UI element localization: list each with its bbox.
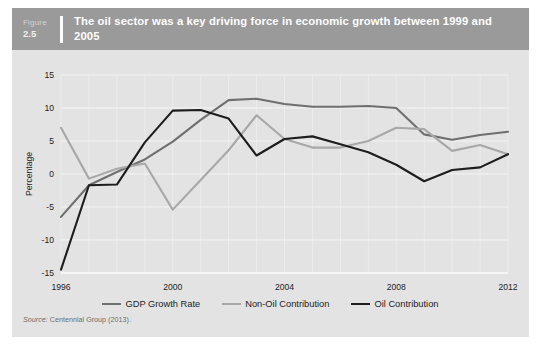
legend-color-swatch [351,303,370,306]
legend-entry[interactable]: Non-Oil Contribution [222,299,329,309]
legend-entry[interactable]: Oil Contribution [351,299,438,309]
figure-number-block: Figure 2.5 [12,18,60,40]
source-prefix: Source: [23,315,48,324]
legend-entry[interactable]: GDP Growth Rate [102,299,200,309]
legend-color-swatch [102,303,121,306]
x-axis-tick-label: 1996 [51,282,70,292]
y-axis-title: Percentage [24,152,34,196]
x-axis-tick-label: 2004 [275,282,294,292]
legend-label: GDP Growth Rate [125,299,200,309]
x-axis-tick-label: 2008 [387,282,406,292]
chart-legend: GDP Growth RateNon-Oil ContributionOil C… [12,295,529,313]
y-axis-tick-label: 0 [49,169,54,179]
x-axis-tick-label: 2012 [498,282,517,292]
x-axis-tick-label: 2000 [163,282,182,292]
legend-color-swatch [222,303,241,306]
y-axis-tick-label: -10 [42,235,55,245]
figure-header-banner: Figure 2.5 The oil sector was a key driv… [12,8,529,50]
source-text: Centennial Group (2013). [48,315,131,324]
y-axis-tick-label: 10 [44,103,54,113]
source-note: Source: Centennial Group (2013). [23,315,131,324]
chart-plot-area: 151050-5-10-15Percentage1996200020042008… [12,50,529,337]
y-axis-tick-label: -5 [46,202,54,212]
line-chart-svg: 151050-5-10-15Percentage1996200020042008… [12,50,529,337]
figure-title: The oil sector was a key driving force i… [74,14,504,45]
y-axis-tick-label: 5 [49,136,54,146]
legend-label: Oil Contribution [374,299,438,309]
figure-number-value: 2.5 [23,28,60,40]
figure-label-word: Figure [23,18,60,28]
y-axis-tick-label: -15 [42,268,55,278]
y-axis-tick-label: 15 [44,70,54,80]
figure-divider-rule [60,16,63,43]
figure-card: Figure 2.5 The oil sector was a key driv… [12,8,529,337]
legend-label: Non-Oil Contribution [245,299,329,309]
